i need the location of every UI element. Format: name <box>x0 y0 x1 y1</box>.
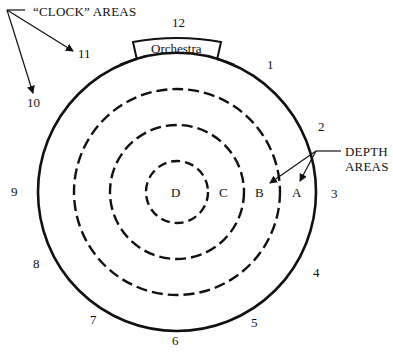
depth-areas-caption-line1: DEPTH <box>345 145 388 158</box>
orchestra-label: Orchestra <box>151 42 202 55</box>
depth-area-c: C <box>219 186 228 199</box>
clock-areas-caption: “CLOCK” AREAS <box>33 5 136 18</box>
clock-arrow-10 <box>7 10 33 93</box>
clock-5: 5 <box>251 316 258 329</box>
depth-area-b: B <box>255 186 264 199</box>
depth-areas-caption-line2: AREAS <box>345 160 389 173</box>
clock-8: 8 <box>33 257 40 270</box>
depth-area-d: D <box>171 186 180 199</box>
clock-1: 1 <box>267 58 274 71</box>
depth-arrow-b <box>270 151 316 183</box>
clock-9: 9 <box>11 185 18 198</box>
clock-12: 12 <box>172 16 185 29</box>
clock-11: 11 <box>78 47 91 60</box>
clock-7: 7 <box>90 313 97 326</box>
clock-6: 6 <box>172 334 179 347</box>
clock-2: 2 <box>318 120 325 133</box>
clock-4: 4 <box>313 266 320 279</box>
clock-3: 3 <box>331 187 338 200</box>
clock-10: 10 <box>27 96 40 109</box>
depth-area-a: A <box>292 186 301 199</box>
